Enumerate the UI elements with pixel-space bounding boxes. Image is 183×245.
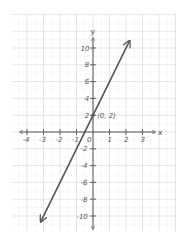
y-tick-label: 6 xyxy=(85,78,90,86)
x-tick-label: 1 xyxy=(108,136,112,144)
y-tick-label: -6 xyxy=(81,179,89,187)
y-tick-label: -4 xyxy=(81,162,88,170)
x-tick-label: 3 xyxy=(141,136,145,144)
x-tick-label: 2 xyxy=(124,136,129,144)
x-axis-label: x xyxy=(158,128,163,137)
x-tick-label: -4 xyxy=(23,136,30,144)
y-axis-label: y xyxy=(91,27,96,36)
y-tick-label: -8 xyxy=(81,196,89,204)
x-tick-label: 0 xyxy=(87,136,92,144)
y-tick-label: 4 xyxy=(85,95,89,103)
point-label: (0, 2) xyxy=(97,112,116,120)
y-tick-label: 10 xyxy=(81,45,90,53)
x-tick-label: -2 xyxy=(56,136,64,144)
coordinate-plane-chart: xy -4-3-2-10123108642-2-4-6-8-10 (0, 2) xyxy=(0,0,183,245)
y-tick-label: 8 xyxy=(85,61,90,69)
x-tick-label: -3 xyxy=(39,136,46,144)
point-marker xyxy=(91,114,94,117)
y-tick-label: 2 xyxy=(85,112,90,120)
x-tick-label: -1 xyxy=(72,136,79,144)
y-tick-label: -10 xyxy=(76,213,88,221)
y-tick-label: -2 xyxy=(81,145,89,153)
